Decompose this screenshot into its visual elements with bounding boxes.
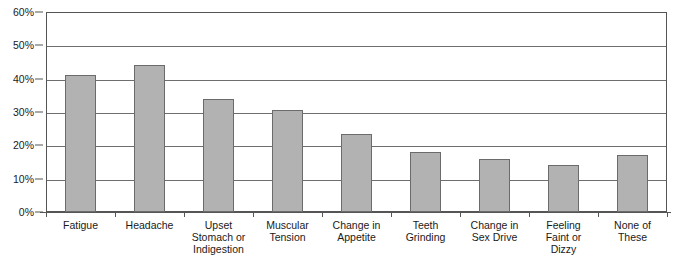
x-axis-tick-label-line: Appetite — [322, 231, 391, 243]
y-axis-tick-label: 40% — [13, 73, 34, 84]
x-axis-tick-label-line: Change in — [460, 219, 529, 231]
x-axis-tick-label-line: Sex Drive — [460, 231, 529, 243]
y-axis-tick-mark — [35, 45, 43, 46]
x-axis-tick-mark — [253, 212, 254, 217]
x-axis-tick-label-line: Upset — [184, 219, 253, 231]
x-axis-tick-mark — [322, 212, 323, 217]
bar-chart: 0%10%20%30%40%50%60% FatigueHeadacheUpse… — [0, 0, 675, 265]
y-axis-tick-label: 30% — [13, 107, 34, 118]
x-axis-tick-label: Fatigue — [46, 219, 115, 231]
x-axis-tick-label: FeelingFaint orDizzy — [529, 219, 598, 256]
x-axis-tick-mark — [391, 212, 392, 217]
bar — [410, 152, 441, 212]
x-axis-tick-mark — [184, 212, 185, 217]
bars-layer — [46, 12, 667, 212]
x-axis-tick-label-line: Teeth — [391, 219, 460, 231]
x-axis-tick-label-line: Grinding — [391, 231, 460, 243]
x-axis-tick-mark — [46, 212, 47, 217]
y-axis-tick-label: 10% — [13, 173, 34, 184]
x-axis-tick-mark — [667, 212, 668, 217]
x-axis-tick-label-line: None of — [598, 219, 667, 231]
y-axis-tick-mark — [35, 12, 43, 13]
x-axis-tick-label-line: Feeling — [529, 219, 598, 231]
x-axis-tick-label: MuscularTension — [253, 219, 322, 243]
x-axis-tick-label-line: These — [598, 231, 667, 243]
y-axis-tick-mark — [35, 112, 43, 113]
x-axis-tick-mark — [529, 212, 530, 217]
y-axis-tick-label: 0% — [19, 207, 34, 218]
bar — [65, 75, 96, 212]
y-axis-tick-mark — [35, 78, 43, 79]
x-axis-tick-label-line: Fatigue — [46, 219, 115, 231]
x-axis-tick-label-line: Muscular — [253, 219, 322, 231]
y-axis-tick-label: 20% — [13, 140, 34, 151]
x-axis-tick-label: None ofThese — [598, 219, 667, 243]
y-axis-tick-mark — [35, 145, 43, 146]
bar — [134, 65, 165, 212]
x-axis-tick-mark — [460, 212, 461, 217]
bar — [272, 110, 303, 212]
x-axis-tick-mark — [115, 212, 116, 217]
y-axis-tick-mark — [35, 178, 43, 179]
x-axis-tick-label-line: Dizzy — [529, 243, 598, 255]
x-axis-tick-label: Change inSex Drive — [460, 219, 529, 243]
x-axis-labels: FatigueHeadacheUpsetStomach orIndigestio… — [46, 219, 667, 265]
y-axis: 0%10%20%30%40%50%60% — [0, 0, 46, 225]
x-axis-line — [40, 212, 671, 213]
bar — [479, 159, 510, 212]
x-axis-tick-label: TeethGrinding — [391, 219, 460, 243]
bar — [548, 165, 579, 212]
x-axis-tick-label-line: Change in — [322, 219, 391, 231]
x-axis-tick-label: Change inAppetite — [322, 219, 391, 243]
x-axis-tick-label: Headache — [115, 219, 184, 231]
bar — [203, 99, 234, 212]
y-axis-tick-label: 60% — [13, 7, 34, 18]
x-axis-tick-label-line: Headache — [115, 219, 184, 231]
x-axis-tick-label-line: Indigestion — [184, 243, 253, 255]
x-axis-tick-label-line: Faint or — [529, 231, 598, 243]
x-axis-tick-label-line: Stomach or — [184, 231, 253, 243]
x-axis-tick-label: UpsetStomach orIndigestion — [184, 219, 253, 256]
bar — [617, 155, 648, 212]
y-axis-tick-label: 50% — [13, 40, 34, 51]
bar — [341, 134, 372, 212]
x-axis-tick-label-line: Tension — [253, 231, 322, 243]
x-axis-tick-mark — [598, 212, 599, 217]
